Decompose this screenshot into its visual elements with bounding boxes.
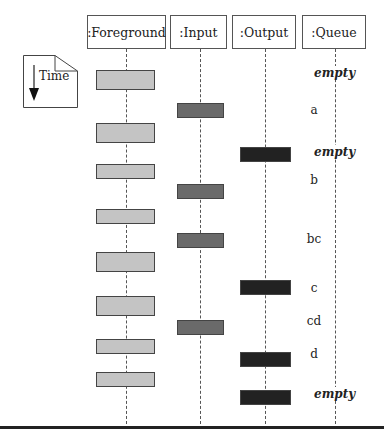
activation-input — [177, 233, 224, 248]
queue-state: bc — [300, 232, 328, 246]
queue-state: empty — [314, 387, 354, 401]
time-note: Time — [23, 55, 78, 108]
lifeline-header-queue: :Queue — [302, 15, 366, 49]
lifeline-output — [265, 49, 266, 424]
activation-input — [177, 184, 224, 199]
activation-output — [240, 390, 291, 405]
activation-foreground — [96, 70, 155, 90]
activation-foreground — [96, 296, 155, 316]
time-label: Time — [39, 69, 69, 83]
queue-state: c — [300, 281, 328, 295]
queue-state: b — [300, 173, 328, 187]
activation-foreground — [96, 164, 155, 179]
queue-state: a — [300, 103, 328, 117]
lifeline-foreground — [126, 49, 127, 424]
queue-state: empty — [314, 145, 354, 159]
queue-state: d — [300, 347, 328, 361]
bottom-rule — [0, 426, 384, 429]
activation-output — [240, 147, 291, 162]
activation-output — [240, 352, 291, 367]
activation-foreground — [96, 209, 155, 224]
lifeline-header-input: :Input — [170, 15, 227, 49]
activation-foreground — [96, 339, 155, 354]
queue-state: empty — [314, 66, 354, 80]
activation-output — [240, 280, 291, 295]
lifeline-header-output: :Output — [232, 15, 296, 49]
lifeline-header-foreground: :Foreground — [87, 15, 166, 49]
activation-input — [177, 103, 224, 118]
activation-foreground — [96, 372, 155, 387]
activation-foreground — [96, 252, 155, 272]
activation-foreground — [96, 123, 155, 143]
lifeline-queue — [335, 49, 336, 424]
queue-state: cd — [300, 314, 328, 328]
activation-input — [177, 320, 224, 335]
